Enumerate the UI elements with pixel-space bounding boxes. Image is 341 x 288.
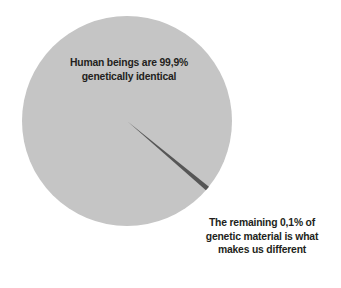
different-label-line-3: makes us different	[194, 243, 331, 257]
different-label-line-1: The remaining 0,1% of	[194, 216, 331, 230]
different-label-line-2: genetic material is what	[194, 230, 331, 244]
pie-slice-identical	[22, 16, 232, 226]
identical-label: Human beings are 99,9% genetically ident…	[45, 56, 212, 83]
identical-label-line-2: genetically identical	[45, 70, 212, 84]
identical-label-line-1: Human beings are 99,9%	[45, 56, 212, 70]
different-label: The remaining 0,1% of genetic material i…	[194, 216, 331, 257]
pie-chart-figure: Human beings are 99,9% genetically ident…	[0, 0, 341, 288]
